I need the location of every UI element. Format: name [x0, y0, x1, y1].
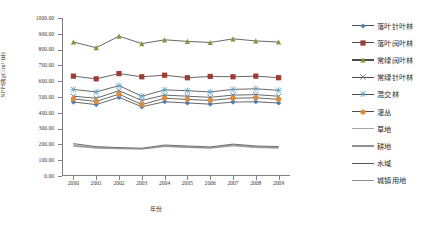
data-point [185, 75, 190, 80]
legend-marker-icon [357, 88, 369, 100]
data-point [230, 96, 235, 101]
legend-swatch [352, 54, 374, 66]
legend-label: 灌丛 [374, 107, 392, 117]
legend-item-4[interactable]: 混交林 [352, 86, 440, 103]
legend-item-9[interactable]: 城镇用地 [352, 172, 440, 189]
series-5 [71, 92, 281, 108]
data-point [208, 98, 213, 103]
data-point [116, 83, 122, 89]
legend-label: 水域 [374, 158, 392, 168]
data-point [276, 97, 281, 102]
series-2 [71, 34, 281, 51]
data-point [139, 102, 144, 107]
y-tick-label: 300.00 [10, 125, 54, 131]
data-point [360, 91, 366, 97]
legend-label: 城镇用地 [374, 175, 406, 185]
y-tick-label: 700.00 [10, 62, 54, 68]
series-line [73, 36, 278, 48]
legend-item-0[interactable]: 落叶针叶林 [352, 17, 440, 34]
data-point [71, 39, 76, 44]
legend-item-7[interactable]: 耕地 [352, 137, 440, 154]
data-point [230, 86, 236, 92]
legend-item-3[interactable]: 常绿针叶林 [352, 69, 440, 86]
legend-swatch [352, 157, 374, 169]
data-point [94, 99, 99, 104]
chart-figure: NPP值(gC/m²·年) 年份 0.00100.00200.00300.004… [0, 0, 441, 230]
y-axis-title: NPP值(gC/m²·年) [0, 52, 10, 98]
legend-swatch [352, 140, 374, 152]
legend-swatch [352, 174, 374, 186]
data-point [116, 92, 121, 97]
x-tick-label: 2009 [264, 180, 294, 186]
y-tick-label: 400.00 [10, 110, 54, 116]
data-point [139, 74, 144, 79]
data-point [94, 45, 99, 50]
y-tick-label: 0.00 [10, 173, 54, 179]
legend-label: 草地 [374, 124, 392, 134]
legend-swatch [352, 20, 374, 32]
legend-swatch [352, 37, 374, 49]
data-point [253, 74, 258, 79]
legend-line [352, 180, 374, 181]
data-point [360, 75, 365, 80]
legend-label: 混交林 [374, 89, 399, 99]
data-point [253, 86, 259, 92]
data-point [162, 96, 167, 101]
legend-item-8[interactable]: 水域 [352, 155, 440, 172]
series-line [73, 74, 278, 79]
data-point [71, 96, 76, 101]
data-point [360, 23, 365, 28]
legend-line [352, 163, 374, 164]
y-tick-label: 600.00 [10, 78, 54, 84]
data-point [360, 57, 365, 62]
legend-label: 耕地 [374, 141, 392, 151]
legend-swatch [352, 71, 374, 83]
data-point [184, 88, 190, 94]
data-point [116, 34, 121, 39]
y-tick-label: 500.00 [10, 94, 54, 100]
data-point [276, 75, 281, 80]
data-point [207, 89, 213, 95]
y-tick-label: 200.00 [10, 141, 54, 147]
data-point [71, 74, 76, 79]
legend-item-5[interactable]: 灌丛 [352, 103, 440, 120]
data-point [360, 40, 365, 45]
y-tick [58, 176, 62, 177]
data-point [162, 73, 167, 78]
data-point [162, 87, 168, 93]
data-point [94, 76, 99, 81]
legend: 落叶针叶林落叶阔叶林常绿阔叶林常绿针叶林混交林灌丛草地耕地水域城镇用地 [352, 17, 440, 189]
data-point [116, 71, 121, 76]
legend-item-2[interactable]: 常绿阔叶林 [352, 51, 440, 68]
legend-item-1[interactable]: 落叶阔叶林 [352, 34, 440, 51]
legend-swatch [352, 123, 374, 135]
legend-item-6[interactable]: 草地 [352, 120, 440, 137]
data-point [93, 89, 99, 95]
legend-label: 落叶针叶林 [374, 21, 414, 31]
legend-swatch [352, 106, 374, 118]
legend-marker-icon [357, 37, 369, 49]
data-point [208, 74, 213, 79]
y-tick-label: 100.00 [10, 157, 54, 163]
x-axis-title: 年份 [150, 204, 162, 213]
data-point [70, 86, 76, 92]
legend-marker-icon [357, 71, 369, 83]
y-tick-label: 1000.00 [10, 15, 54, 21]
y-tick-label: 800.00 [10, 46, 54, 52]
legend-line [352, 128, 374, 129]
legend-marker-icon [357, 54, 369, 66]
legend-line [352, 145, 374, 146]
data-point [139, 93, 145, 99]
legend-marker-icon [357, 106, 369, 118]
series-1 [71, 71, 281, 81]
data-point [253, 95, 258, 100]
series-0 [71, 95, 281, 110]
plot-area [62, 18, 290, 176]
y-tick-label: 900.00 [10, 31, 54, 37]
legend-marker-icon [357, 20, 369, 32]
data-point [276, 87, 282, 93]
data-point [360, 109, 365, 114]
legend-label: 落叶阔叶林 [374, 38, 414, 48]
data-point [230, 74, 235, 79]
legend-label: 常绿阔叶林 [374, 55, 414, 65]
